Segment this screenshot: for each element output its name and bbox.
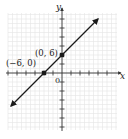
x-axis-label: x — [120, 71, 125, 81]
point-label-0-6: (0, 6) — [35, 48, 58, 58]
axes — [6, 8, 121, 131]
grid — [8, 13, 117, 130]
data-point — [42, 71, 46, 75]
data-point — [60, 53, 64, 57]
point-label-neg6-0: (−6, 0) — [6, 58, 36, 68]
y-axis-label: y — [55, 2, 62, 12]
origin-label: 0 — [55, 76, 60, 85]
coordinate-plane: y x 0 (0, 6) (−6, 0) — [0, 0, 128, 139]
